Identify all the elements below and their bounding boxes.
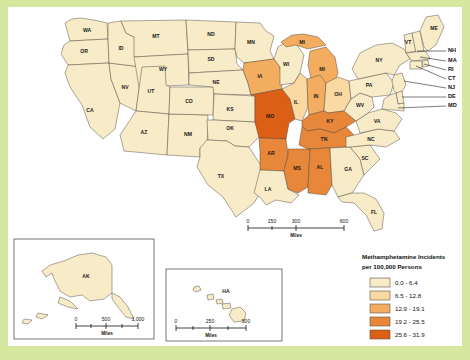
state-label-AL: AL [317, 164, 324, 170]
legend-item-1[interactable]: 6.5 - 12.8 [370, 291, 422, 300]
map-sheet: WA OR CA NV ID MT WY UT AZ NM CO ND SD N… [8, 7, 462, 346]
alaska-scale-tick-2: 1,000 [132, 316, 145, 322]
hawaii-scale-tick-2: 500 [242, 318, 251, 324]
callout-label-RI: RI [448, 66, 454, 72]
callout-label-MA: MA [448, 57, 457, 63]
state-AL[interactable] [308, 148, 332, 195]
state-label-SC: SC [361, 155, 368, 161]
state-label-ND: ND [207, 31, 215, 37]
legend-swatch-3 [370, 317, 390, 326]
alaska-scale-tick-1: 500 [102, 316, 111, 322]
state-SD[interactable] [188, 49, 243, 73]
state-label-MN: MN [247, 39, 255, 45]
callout-label-NH: NH [448, 47, 456, 53]
state-label-WV: WV [356, 102, 365, 108]
state-label-ID: ID [118, 45, 123, 51]
state-label-TX: TX [218, 173, 225, 179]
state-label-HA: HA [222, 288, 230, 294]
state-HA-island-4[interactable] [222, 303, 231, 309]
state-label-PA: PA [366, 82, 373, 88]
leader-line-NJ [404, 81, 446, 88]
legend-label-2: 12.9 - 19.1 [395, 305, 425, 312]
hawaii-scale-tick-1: 250 [206, 318, 215, 324]
hawaii-scale-unit: Miles [205, 333, 217, 338]
legend-swatch-1 [370, 291, 390, 300]
alaska-inset[interactable]: AK 0 500 1,000 Miles [14, 239, 154, 339]
state-HA-island-3[interactable] [216, 299, 223, 304]
state-label-MO: MO [266, 113, 274, 119]
callout-label-NJ: NJ [448, 84, 455, 90]
state-label-WA: WA [83, 27, 92, 33]
state-label-MI-upper: MI [299, 39, 305, 45]
state-label-LA: LA [265, 186, 272, 192]
state-label-KS: KS [226, 106, 234, 112]
main-scale-line [248, 225, 344, 231]
state-label-NE: NE [212, 79, 220, 85]
main-scale-tick-3: 600 [340, 218, 349, 224]
state-label-NY: NY [375, 57, 383, 63]
legend-item-2[interactable]: 12.9 - 19.1 [370, 304, 425, 313]
contiguous-us-layer[interactable]: WA OR CA NV ID MT WY UT AZ NM CO ND SD N… [61, 15, 457, 231]
state-label-CA: CA [86, 107, 94, 113]
state-HA-island-2[interactable] [207, 294, 214, 300]
state-label-NV: NV [121, 84, 129, 90]
state-label-SD: SD [207, 56, 214, 62]
legend-label-4: 25.6 - 31.9 [395, 331, 425, 338]
state-label-AR: AR [267, 150, 275, 156]
main-scale-unit: Miles [290, 233, 302, 238]
state-label-NC: NC [367, 136, 375, 142]
legend-item-3[interactable]: 19.2 - 25.5 [370, 317, 425, 326]
callout-label-MD: MD [448, 102, 457, 108]
legend-swatch-4 [370, 330, 390, 339]
state-label-CO: CO [185, 98, 193, 104]
state-label-KY: KY [326, 118, 334, 124]
alaska-scale-tick-0: 0 [75, 316, 78, 322]
state-label-WI: WI [283, 61, 290, 67]
state-KS[interactable] [213, 94, 255, 122]
state-label-VT: VT [405, 39, 412, 45]
state-RI[interactable] [422, 60, 429, 67]
main-scale-tick-0: 0 [247, 218, 250, 224]
us-choropleth-map[interactable]: WA OR CA NV ID MT WY UT AZ NM CO ND SD N… [8, 7, 462, 346]
state-label-WY: WY [159, 66, 168, 72]
legend-title-line2: per 100,000 Persons [362, 263, 422, 270]
leader-line-CT [416, 66, 446, 79]
legend-title-line1: Methamphetamine Incidents [362, 253, 446, 260]
legend-swatch-0 [370, 278, 390, 287]
state-label-MS: MS [293, 165, 301, 171]
state-label-NM: NM [184, 131, 192, 137]
hawaii-scale-tick-0: 0 [175, 318, 178, 324]
main-scale-tick-2: 300 [292, 218, 301, 224]
state-ME[interactable] [420, 15, 444, 51]
hawaii-inset[interactable]: HA 0 250 500 Miles [166, 269, 282, 341]
callout-label-CT: CT [448, 75, 456, 81]
callout-label-DE: DE [448, 93, 456, 99]
state-label-OR: OR [80, 48, 88, 54]
state-label-ME: ME [430, 25, 438, 31]
legend-swatch-2 [370, 304, 390, 313]
state-TX[interactable] [197, 140, 266, 217]
state-label-MT: MT [152, 33, 160, 39]
state-label-UT: UT [148, 88, 156, 94]
state-label-IN: IN [313, 93, 318, 99]
legend-label-1: 6.5 - 12.8 [395, 292, 422, 299]
state-label-OK: OK [226, 125, 234, 131]
map-canvas: WA OR CA NV ID MT WY UT AZ NM CO ND SD N… [8, 7, 462, 346]
alaska-scale-unit: Miles [101, 331, 113, 336]
state-label-AZ: AZ [141, 129, 148, 135]
leader-line-MD [398, 106, 446, 108]
legend-item-0[interactable]: 0.0 - 6.4 [370, 278, 418, 287]
state-label-TN: TN [321, 136, 328, 142]
main-scale-tick-1: 150 [268, 218, 277, 224]
main-scale-bar: 0 150 300 600 Miles [247, 218, 349, 238]
state-NJ[interactable] [392, 73, 406, 95]
map-legend[interactable]: Methamphetamine Incidents per 100,000 Pe… [362, 253, 446, 339]
state-label-OH: OH [334, 91, 342, 97]
legend-label-0: 0.0 - 6.4 [395, 279, 418, 286]
legend-label-3: 19.2 - 25.5 [395, 318, 425, 325]
leader-line-RI [424, 64, 446, 70]
legend-item-4[interactable]: 25.6 - 31.9 [370, 330, 425, 339]
state-label-VA: VA [374, 118, 381, 124]
state-label-GA: GA [344, 166, 352, 172]
state-label-IL: IL [294, 99, 299, 105]
